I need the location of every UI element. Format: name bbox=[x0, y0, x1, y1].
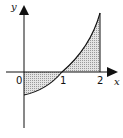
x-axis-label: x bbox=[114, 76, 120, 87]
tick-label-1: 1 bbox=[60, 75, 66, 86]
tick-label-0: 0 bbox=[16, 75, 22, 86]
tick-label-2: 2 bbox=[97, 75, 103, 86]
shaded-region-negative bbox=[24, 72, 62, 95]
graph-diagram: y x 0 1 2 bbox=[0, 0, 123, 138]
y-axis-label: y bbox=[10, 1, 17, 12]
shaded-region-positive bbox=[62, 13, 100, 72]
y-axis-arrow-icon bbox=[19, 5, 29, 15]
